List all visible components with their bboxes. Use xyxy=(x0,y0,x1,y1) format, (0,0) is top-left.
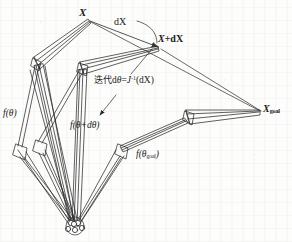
link-distal-theta-edge1 xyxy=(36,21,89,61)
label-f-theta-goal-close: ) xyxy=(156,149,159,159)
ik-iteration-diagram xyxy=(0,0,292,242)
link-proximal-dtheta-edge2 xyxy=(77,70,83,225)
label-iteration-arg: (dX) xyxy=(136,75,154,85)
link-theta-mid-upper2 xyxy=(22,66,39,147)
link-dtheta-mid-upper xyxy=(38,69,80,142)
link-distal-goal-edge1 xyxy=(187,111,259,114)
link-proximal-dtheta xyxy=(72,70,87,226)
label-X: X xyxy=(79,7,86,18)
linkage-chain-f-theta-goal xyxy=(76,110,260,226)
figure-root: X dX X+dX Xgoal 迭代dθ=J-1(dX) f(θ) f(θ+dθ… xyxy=(0,0,292,242)
label-f-theta-goal: f(θgoal) xyxy=(136,150,159,160)
label-XdX-suffix: +dX xyxy=(165,33,183,44)
iteration-leader-arrow xyxy=(100,95,116,115)
link-distal-goal-edge2 xyxy=(188,112,259,119)
label-XdX-base: X xyxy=(158,33,165,44)
label-Xgoal-base: X xyxy=(263,103,270,114)
joint-mid-goal xyxy=(115,144,128,159)
label-f-theta-goal-subscript: goal xyxy=(146,153,155,159)
link-proximal-goal-edge2 xyxy=(122,121,186,150)
label-dX-text: dX xyxy=(114,16,126,27)
label-f-theta-goal-base: f(θ xyxy=(136,149,146,159)
vector-XdX-to-Xgoal xyxy=(161,49,261,111)
label-f-theta-plus-dtheta: f(θ+dθ) xyxy=(70,121,99,131)
link-distal-goal xyxy=(186,110,260,124)
label-f-theta-text: f(θ) xyxy=(3,108,17,118)
link-goal-mid-lower2 xyxy=(79,156,124,225)
label-iteration-cjk: 迭代 xyxy=(94,75,112,85)
label-f-theta-dtheta-text: f(θ+dθ) xyxy=(70,120,99,130)
label-X-plus-dX: X+dX xyxy=(158,34,183,44)
label-f-theta: f(θ) xyxy=(3,109,17,119)
label-X-goal: Xgoal xyxy=(263,104,280,115)
link-distal-theta-edge2 xyxy=(38,22,90,65)
label-dX: dX xyxy=(114,17,126,27)
link-distal-dtheta-edge1 xyxy=(82,48,158,65)
label-Xgoal-subscript: goal xyxy=(270,107,280,114)
link-goal-mid-lower3 xyxy=(78,158,121,226)
joint-mid-dtheta xyxy=(33,140,47,156)
link-proximal-goal-edge1 xyxy=(121,120,185,148)
iteration-leader-line xyxy=(131,49,152,74)
label-iteration-formula: 迭代dθ=J-1(dX) xyxy=(94,76,154,86)
